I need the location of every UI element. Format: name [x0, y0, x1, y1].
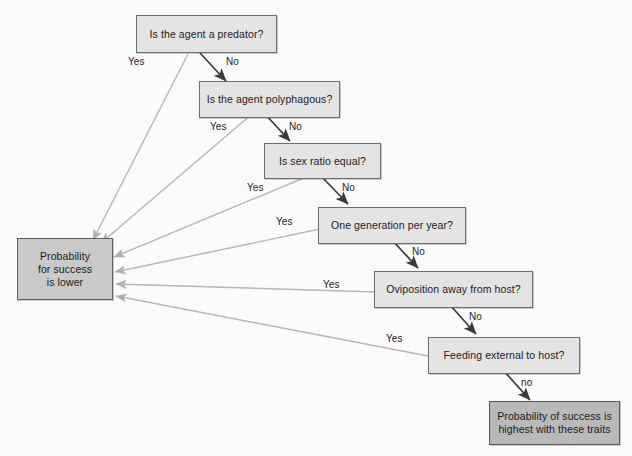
- node-q1-predator[interactable]: Is the agent a predator?: [136, 15, 277, 53]
- edge-label-q1-no: No: [226, 56, 239, 67]
- outcome-low-line-1: Probability: [40, 250, 90, 263]
- edge-label-q3-yes: Yes: [247, 182, 264, 193]
- node-q2-polyphagous[interactable]: Is the agent polyphagous?: [199, 81, 340, 118]
- outcome-high-line-1: Probability of success is: [497, 410, 612, 423]
- edge-label-q2-no: No: [289, 121, 302, 132]
- outcome-low-line-3: is lower: [47, 276, 83, 289]
- node-q2-label: Is the agent polyphagous?: [207, 93, 333, 106]
- edge-label-q4-yes: Yes: [276, 216, 293, 227]
- node-outcome-lower-probability[interactable]: Probability for success is lower: [17, 238, 113, 300]
- edge-label-q1-yes: Yes: [128, 56, 145, 67]
- node-q1-label: Is the agent a predator?: [150, 28, 264, 41]
- edge-label-q5-no: No: [469, 311, 482, 322]
- outcome-high-line-2: highest with these traits: [498, 423, 610, 436]
- edge-label-q3-no: No: [342, 182, 355, 193]
- edge-label-q5-yes: Yes: [323, 279, 340, 290]
- outcome-low-line-2: for success: [38, 263, 92, 276]
- node-q3-label: Is sex ratio equal?: [279, 155, 366, 168]
- node-q5-oviposition[interactable]: Oviposition away from host?: [374, 271, 533, 308]
- edge-label-q6-no: no: [521, 377, 532, 388]
- edge-label-q2-yes: Yes: [210, 121, 227, 132]
- edge-label-q4-no: No: [412, 246, 425, 257]
- flowchart-connectors: [0, 0, 632, 456]
- node-q6-label: Feeding external to host?: [444, 349, 565, 362]
- node-q6-feeding-external[interactable]: Feeding external to host?: [428, 337, 580, 374]
- node-outcome-highest-probability[interactable]: Probability of success is highest with t…: [489, 401, 620, 445]
- node-q4-label: One generation per year?: [331, 219, 453, 232]
- flowchart-canvas: Is the agent a predator? Is the agent po…: [0, 0, 632, 456]
- edge-label-q6-yes: Yes: [386, 333, 403, 344]
- node-q3-sex-ratio[interactable]: Is sex ratio equal?: [264, 143, 381, 179]
- node-q5-label: Oviposition away from host?: [386, 283, 521, 296]
- node-q4-one-generation[interactable]: One generation per year?: [318, 207, 466, 244]
